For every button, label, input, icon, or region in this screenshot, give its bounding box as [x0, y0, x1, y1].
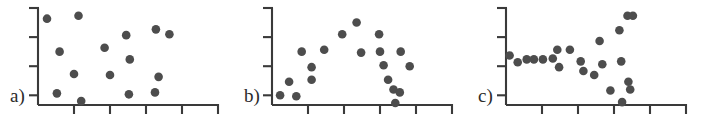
data-point	[152, 25, 161, 34]
data-point	[530, 55, 539, 64]
data-point	[375, 30, 384, 39]
data-point	[376, 47, 385, 56]
data-point	[629, 11, 638, 20]
data-point	[579, 67, 588, 76]
data-point	[405, 62, 414, 71]
data-point	[391, 99, 400, 108]
data-point	[126, 55, 135, 64]
panel-c-plot	[468, 0, 702, 123]
panel-b-plot	[234, 0, 468, 123]
panel-b: b)	[234, 0, 468, 123]
data-point	[384, 75, 393, 84]
data-point	[576, 57, 585, 66]
data-point	[505, 51, 514, 60]
data-point	[338, 30, 347, 39]
data-point	[55, 47, 64, 56]
data-point	[285, 77, 294, 86]
data-point	[307, 63, 316, 72]
data-point	[74, 11, 83, 20]
data-point	[53, 89, 62, 98]
data-point	[553, 45, 562, 54]
data-point	[292, 92, 301, 101]
data-point	[106, 71, 115, 80]
data-point	[396, 88, 405, 97]
data-point	[154, 73, 163, 82]
data-point	[513, 58, 522, 67]
data-point	[77, 97, 86, 106]
data-point	[70, 70, 79, 79]
data-point	[276, 91, 285, 100]
data-point	[151, 88, 160, 97]
data-point	[165, 30, 174, 39]
data-point	[566, 45, 575, 54]
data-point	[626, 85, 635, 94]
data-point	[352, 18, 361, 27]
data-point	[125, 90, 134, 99]
data-point	[549, 54, 558, 63]
data-point	[590, 71, 599, 80]
panel-c: c)	[468, 0, 702, 123]
panel-a: a)	[0, 0, 234, 123]
data-point	[43, 14, 52, 23]
data-point	[555, 63, 564, 72]
scatter-figure: a) b) c)	[0, 0, 702, 123]
data-point	[122, 31, 131, 40]
data-point	[539, 55, 548, 64]
data-point	[307, 75, 316, 84]
data-point	[598, 60, 607, 69]
data-point	[624, 77, 633, 86]
data-point	[396, 47, 405, 56]
data-point	[595, 37, 604, 46]
data-point	[320, 45, 329, 54]
data-point	[617, 57, 626, 66]
data-point	[606, 86, 615, 95]
data-point	[618, 98, 627, 107]
data-point	[297, 47, 306, 56]
data-point	[357, 48, 366, 57]
data-point	[615, 26, 624, 35]
panel-a-plot	[0, 0, 234, 123]
data-point	[379, 61, 388, 70]
data-point	[100, 43, 109, 52]
